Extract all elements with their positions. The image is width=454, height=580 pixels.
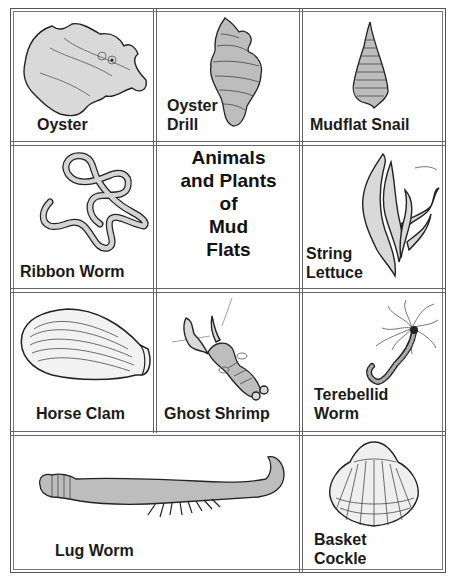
grid-divider [10, 288, 446, 289]
label-line: Cockle [314, 549, 366, 568]
grid-divider [10, 292, 446, 293]
title-line: and Plants [157, 169, 300, 192]
label-string-lettuce: String Lettuce [306, 244, 363, 282]
grid-divider [10, 141, 446, 142]
label-text: Oyster [37, 116, 88, 133]
label-line: Worm [314, 404, 388, 423]
label-line: Oyster [167, 96, 218, 115]
grid-divider [10, 435, 446, 436]
grid-divider [299, 8, 300, 573]
label-text: Lug Worm [55, 542, 134, 559]
label-text: Ribbon Worm [20, 263, 125, 280]
basket-cockle-shell-illustration [326, 440, 422, 530]
ghost-shrimp-illustration [170, 296, 285, 408]
label-text: Ghost Shrimp [164, 405, 270, 422]
label-mudflat-snail: Mudflat Snail [310, 115, 410, 134]
title-line: Mud [157, 215, 300, 238]
title-line: of [157, 192, 300, 215]
label-line: Lettuce [306, 263, 363, 282]
label-oyster: Oyster [37, 115, 88, 134]
label-terebellid-worm: Terebellid Worm [314, 385, 388, 423]
ribbon-worm-illustration [36, 150, 151, 255]
label-text: Mudflat Snail [310, 116, 410, 133]
label-line: Basket [314, 530, 366, 549]
grid-divider [153, 8, 154, 433]
label-basket-cockle: Basket Cockle [314, 530, 366, 568]
label-lug-worm: Lug Worm [55, 541, 134, 560]
grid-divider [10, 431, 446, 432]
label-line: Terebellid [314, 385, 388, 404]
label-oyster-drill: Oyster Drill [167, 96, 218, 134]
label-horse-clam: Horse Clam [36, 404, 125, 423]
horse-clam-shell-illustration [18, 305, 153, 383]
title-line: Animals [157, 146, 300, 169]
page-title: Animals and Plants of Mud Flats [157, 146, 300, 261]
oyster-illustration [20, 18, 150, 118]
label-line: String [306, 244, 363, 263]
label-ghost-shrimp: Ghost Shrimp [164, 404, 270, 423]
oyster-drill-shell-illustration [205, 16, 295, 131]
label-line: Drill [167, 115, 218, 134]
mudflat-snail-shell-illustration [350, 20, 390, 108]
lug-worm-illustration [36, 455, 286, 525]
label-ribbon-worm: Ribbon Worm [20, 262, 125, 281]
title-line: Flats [157, 238, 300, 261]
string-lettuce-seaweed-illustration [355, 150, 445, 280]
terebellid-worm-illustration [362, 298, 442, 388]
label-text: Horse Clam [36, 405, 125, 422]
grid-divider [302, 8, 303, 573]
